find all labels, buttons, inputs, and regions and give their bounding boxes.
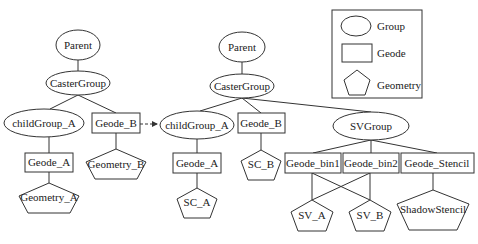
geode-stencil-label: Geode_Stencil xyxy=(405,157,470,169)
geode-bin1-node: Geode_bin1 xyxy=(285,153,341,173)
left-geode-b-label: Geode_B xyxy=(95,117,137,129)
left-geometry-b-node: Geometry_B xyxy=(86,149,146,179)
sc-b-node: SC_B xyxy=(241,150,281,180)
left-geode-a-node: Geode_A xyxy=(25,153,73,172)
left-geode-a-label: Geode_A xyxy=(28,156,70,168)
sv-b-label: SV_B xyxy=(357,209,384,221)
right-caster-group-label: CasterGroup xyxy=(214,80,271,92)
geode-bin1-label: Geode_bin1 xyxy=(286,157,340,169)
legend: Group Geode Geometry xyxy=(332,10,422,98)
geode-stencil-node: Geode_Stencil xyxy=(401,153,474,173)
right-child-group-label: childGroup_A xyxy=(165,119,229,131)
right-geode-b-node: Geode_B xyxy=(238,113,285,133)
legend-geode-label: Geode xyxy=(377,47,406,59)
right-geode-a-node: Geode_A xyxy=(173,153,221,173)
sv-b-node: SV_B xyxy=(349,200,391,231)
legend-group-label: Group xyxy=(377,20,406,32)
rectangle-icon xyxy=(342,44,372,62)
sc-a-node: SC_A xyxy=(177,188,217,218)
left-geometry-a-node: Geometry_A xyxy=(19,183,79,213)
right-caster-group-node: CasterGroup xyxy=(210,74,274,98)
scene-graph-diagram: Parent CasterGroup childGroup_A Geode_B … xyxy=(0,0,478,244)
sc-b-label: SC_B xyxy=(248,158,274,170)
left-child-group-label: childGroup_A xyxy=(12,117,76,129)
left-parent-node: Parent xyxy=(56,30,100,60)
left-child-group-node: childGroup_A xyxy=(4,109,84,137)
sv-a-label: SV_A xyxy=(298,209,326,221)
sv-a-node: SV_A xyxy=(291,200,333,231)
sv-group-node: SVGroup xyxy=(333,112,409,140)
sc-a-label: SC_A xyxy=(184,196,211,208)
geode-bin2-label: Geode_bin2 xyxy=(344,157,398,169)
left-geometry-a-label: Geometry_A xyxy=(20,191,77,203)
left-geometry-b-label: Geometry_B xyxy=(88,158,145,170)
left-geode-b-node: Geode_B xyxy=(92,113,140,133)
geode-bin2-node: Geode_bin2 xyxy=(343,153,399,173)
left-caster-group-node: CasterGroup xyxy=(46,71,110,95)
shadow-stencil-label: ShadowStencil xyxy=(400,203,466,215)
legend-geometry-label: Geometry xyxy=(377,79,421,91)
left-parent-label: Parent xyxy=(64,39,92,51)
right-child-group-node: childGroup_A xyxy=(160,111,234,139)
left-caster-group-label: CasterGroup xyxy=(50,77,107,89)
ellipse-icon xyxy=(341,16,371,36)
right-parent-node: Parent xyxy=(219,32,265,62)
right-parent-label: Parent xyxy=(228,41,256,53)
shadow-stencil-node: ShadowStencil xyxy=(397,190,469,230)
right-geode-b-label: Geode_B xyxy=(240,117,282,129)
sv-group-label: SVGroup xyxy=(350,120,393,132)
right-geode-a-label: Geode_A xyxy=(176,157,218,169)
